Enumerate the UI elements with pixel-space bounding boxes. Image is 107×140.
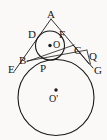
label-point-B: B <box>19 55 26 66</box>
large-circle-center-dot <box>54 88 57 91</box>
label-point-Q: Q <box>89 51 97 62</box>
figure-canvas <box>0 0 107 140</box>
geometry-figure: A D F O B C Q E P G O' <box>0 0 107 140</box>
label-vertex-G: G <box>94 65 102 76</box>
label-point-P: P <box>40 63 46 74</box>
label-apex-A: A <box>47 9 55 20</box>
label-large-circle-center-O-prime: O' <box>49 94 58 104</box>
label-point-C: C <box>74 45 81 56</box>
label-vertex-E: E <box>8 64 15 75</box>
small-circle-center-dot <box>48 44 51 47</box>
label-point-D: D <box>28 29 36 40</box>
label-small-circle-center-O: O <box>53 40 60 50</box>
segment-B-to-C <box>27 45 74 62</box>
